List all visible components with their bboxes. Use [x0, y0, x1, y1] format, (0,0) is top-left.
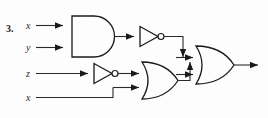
or-gate-output [196, 46, 234, 84]
or-gate-lower [142, 62, 178, 99]
wire-not-upper-to-or-output [164, 37, 183, 50]
not-bubble-upper [158, 34, 164, 40]
and-gate [72, 16, 115, 57]
not-gate-upper [140, 27, 158, 47]
circuit-schematic [0, 0, 268, 118]
not-gate-lower [94, 64, 112, 84]
wire-x-bottom-step [36, 88, 113, 98]
wire-or1-to-or2 [178, 70, 190, 81]
not-bubble-lower [112, 71, 118, 77]
circuit-diagram: 3. x y z x [0, 0, 268, 118]
